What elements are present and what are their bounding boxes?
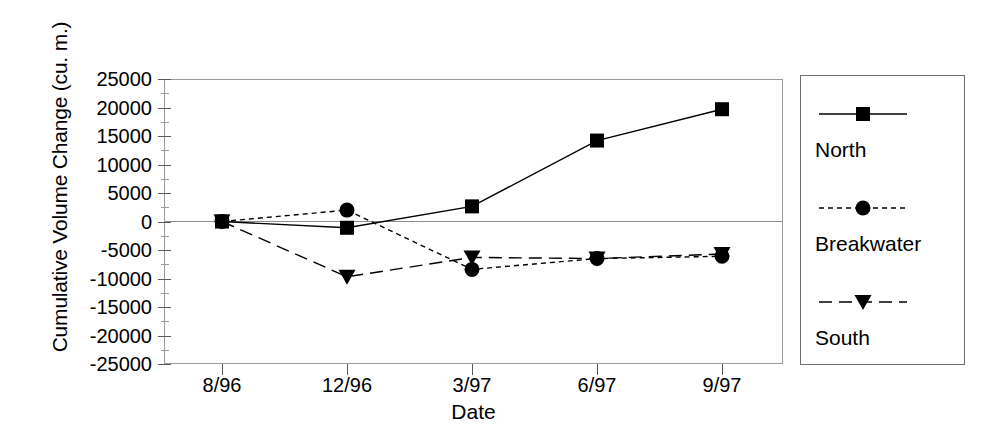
y-minor-tick-mark — [161, 236, 169, 237]
square-marker-icon — [815, 104, 961, 124]
y-minor-tick-mark — [161, 321, 169, 322]
y-tick-mark — [158, 79, 171, 80]
y-minor-tick-mark — [161, 122, 169, 123]
y-tick-label: -20000 — [48, 326, 152, 346]
y-tick-label: -10000 — [48, 269, 152, 289]
legend-entry-breakwater[interactable]: Breakwater — [815, 198, 961, 256]
circle-marker-icon — [815, 198, 961, 218]
zero-baseline — [164, 221, 783, 222]
chart-legend: NorthBreakwaterSouth — [800, 75, 965, 365]
y-tick-label: 15000 — [48, 126, 152, 146]
y-minor-tick-mark — [161, 293, 169, 294]
y-tick-mark — [158, 222, 171, 223]
legend-entry-north[interactable]: North — [815, 104, 961, 162]
y-tick-label: 5000 — [48, 183, 152, 203]
y-tick-mark — [158, 336, 171, 337]
y-minor-tick-mark — [161, 179, 169, 180]
x-axis-title: Date — [164, 400, 783, 424]
x-tick-label: 12/96 — [287, 374, 407, 397]
y-tick-mark — [158, 193, 171, 194]
y-tick-label: 10000 — [48, 155, 152, 175]
x-tick-label: 9/97 — [662, 374, 782, 397]
y-tick-label: -25000 — [48, 354, 152, 374]
x-tick-label: 8/96 — [162, 374, 282, 397]
y-tick-mark — [158, 165, 171, 166]
y-tick-label: 25000 — [48, 69, 152, 89]
y-tick-mark — [158, 307, 171, 308]
y-axis-tick-labels: 2500020000150001000050000-5000-10000-150… — [48, 60, 152, 380]
x-tick-label: 6/97 — [537, 374, 657, 397]
legend-entry-south[interactable]: South — [815, 292, 961, 350]
y-tick-mark — [158, 364, 171, 365]
y-tick-mark — [158, 279, 171, 280]
y-minor-tick-mark — [161, 93, 169, 94]
y-tick-mark — [158, 136, 171, 137]
y-minor-tick-mark — [161, 150, 169, 151]
legend-label: North — [815, 138, 961, 162]
chart-canvas: Cumulative Volume Change (cu. m.) 250002… — [0, 0, 998, 440]
triangle-down-marker-icon — [815, 292, 961, 312]
y-tick-label: 20000 — [48, 98, 152, 118]
y-tick-label: 0 — [48, 212, 152, 232]
y-tick-mark — [158, 108, 171, 109]
y-tick-mark — [158, 250, 171, 251]
y-tick-label: -15000 — [48, 297, 152, 317]
x-tick-label: 3/97 — [412, 374, 532, 397]
y-minor-tick-mark — [161, 207, 169, 208]
legend-label: Breakwater — [815, 232, 961, 256]
y-tick-label: -5000 — [48, 240, 152, 260]
legend-label: South — [815, 326, 961, 350]
y-minor-tick-mark — [161, 264, 169, 265]
y-minor-tick-mark — [161, 350, 169, 351]
